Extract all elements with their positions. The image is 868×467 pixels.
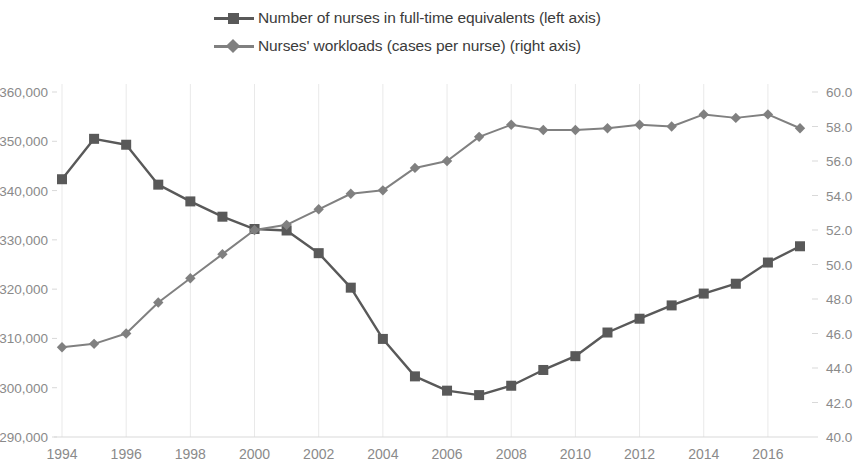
x-axis-labels: 1994199619982000200220042006200820102012… [46,446,783,462]
right-axis-tick-label: 52.0 [826,223,852,238]
left-axis-tick-label: 290,000 [0,430,48,445]
data-point-marker [699,109,709,119]
data-point-marker [635,314,645,324]
left-axis-tick-label: 310,000 [0,331,48,346]
data-point-marker [346,189,356,199]
data-point-marker [314,248,324,258]
data-point-marker [314,204,324,214]
series-line [62,114,800,347]
chart-root: Number of nurses in full-time equivalent… [0,0,868,467]
data-point-marker [153,180,163,190]
data-point-marker [699,289,709,299]
left-axis-tick-label: 360,000 [0,85,48,100]
data-point-marker [570,351,580,361]
chart-svg: 290,000300,000310,000320,000330,000340,0… [0,0,868,467]
data-point-marker [795,241,805,251]
x-axis-tick-label: 2002 [303,446,334,462]
data-point-marker [410,371,420,381]
right-axis-tick-label: 40.0 [826,430,852,445]
right-axis-tick-label: 60.0 [826,85,852,100]
right-axis-tick-label: 48.0 [826,292,852,307]
data-point-marker [667,300,677,310]
data-point-marker [217,212,227,222]
x-axis-tick-label: 2000 [239,446,270,462]
right-axis-tick-label: 44.0 [826,361,852,376]
right-axis-tick-label: 54.0 [826,189,852,204]
left-axis-tick-label: 330,000 [0,233,48,248]
data-point-marker [634,120,644,130]
data-point-marker [506,381,516,391]
data-point-marker [185,196,195,206]
x-axis-tick-label: 1994 [46,446,77,462]
left-axis-tick-label: 350,000 [0,134,48,149]
data-point-marker [763,109,773,119]
data-point-marker [89,339,99,349]
series-line [62,139,800,395]
x-axis-tick-label: 2012 [624,446,655,462]
data-point-marker [763,258,773,268]
left-axis-tick-label: 300,000 [0,381,48,396]
x-axis-tick-label: 2008 [496,446,527,462]
plot-area: 290,000300,000310,000320,000330,000340,0… [0,0,868,467]
data-point-marker [442,386,452,396]
data-point-marker [89,134,99,144]
right-axis-tick-label: 58.0 [826,120,852,135]
data-point-marker [474,390,484,400]
left-axis-tick-label: 320,000 [0,282,48,297]
x-axis-tick-label: 2010 [560,446,591,462]
data-point-marker [666,121,676,131]
x-axis-tick-label: 2014 [688,446,719,462]
right-axis-tick-label: 56.0 [826,154,852,169]
data-point-marker [795,123,805,133]
x-axis-tick-label: 2004 [367,446,398,462]
right-axis-tick-label: 46.0 [826,327,852,342]
data-point-marker [731,279,741,289]
x-axis-tick-label: 1996 [111,446,142,462]
right-axis-tick-label: 42.0 [826,396,852,411]
x-axis-tick-label: 2016 [752,446,783,462]
left-axis-labels: 290,000300,000310,000320,000330,000340,0… [0,85,57,445]
data-point-marker [731,113,741,123]
data-point-marker [602,123,612,133]
x-axis-tick-label: 2006 [431,446,462,462]
data-point-marker [506,120,516,130]
data-point-marker [121,140,131,150]
data-point-marker [570,125,580,135]
x-axis-tick-label: 1998 [175,446,206,462]
data-point-marker [346,283,356,293]
left-axis-tick-label: 340,000 [0,184,48,199]
data-point-marker [57,174,67,184]
data-point-marker [602,328,612,338]
data-point-marker [378,334,388,344]
right-axis-tick-label: 50.0 [826,258,852,273]
right-axis-labels: 40.042.044.046.048.050.052.054.056.058.0… [812,85,852,445]
data-point-marker [57,342,67,352]
data-point-marker [538,365,548,375]
data-point-marker [538,125,548,135]
data-series [57,109,805,400]
